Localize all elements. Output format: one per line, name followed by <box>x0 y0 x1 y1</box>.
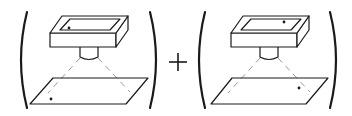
right-term <box>199 12 336 108</box>
box-front-face <box>50 33 116 47</box>
box-front-face <box>231 33 297 47</box>
lens-icon <box>260 46 278 60</box>
projector-device-left <box>50 16 128 60</box>
projection-beams-left <box>48 58 130 93</box>
target-plane-left <box>30 78 148 104</box>
right-open-paren <box>199 12 205 108</box>
box-dot-marker <box>283 21 286 24</box>
target-plane-right <box>211 78 328 104</box>
diagram-canvas <box>0 0 352 116</box>
projector-device-right <box>231 16 309 60</box>
left-open-paren <box>21 12 27 108</box>
plane-dot-marker <box>50 98 53 101</box>
left-close-paren <box>150 12 156 108</box>
plus-operator <box>169 53 187 71</box>
right-close-paren <box>330 12 336 108</box>
plane-dot-marker <box>298 87 301 90</box>
lens-icon <box>80 46 98 60</box>
box-dot-marker <box>68 27 71 30</box>
left-term <box>21 12 156 108</box>
